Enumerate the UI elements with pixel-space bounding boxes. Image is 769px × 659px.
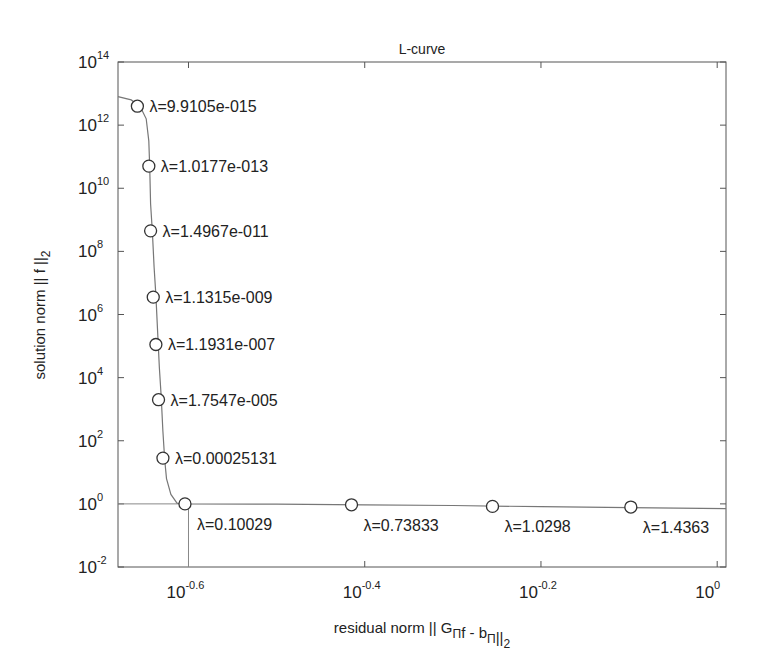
x-axis-title: residual norm || GΠf - bΠ||2 bbox=[334, 619, 511, 651]
lambda-point-label: λ=1.4363 bbox=[643, 519, 709, 536]
l-curve-chart: L-curve 10141012101010810610410210010-2 … bbox=[0, 0, 769, 659]
lambda-point-label: λ=1.7547e-005 bbox=[171, 392, 278, 409]
lambda-point-label: λ=0.00025131 bbox=[175, 450, 277, 467]
lambda-point-label: λ=1.1931e-007 bbox=[168, 336, 275, 353]
lambda-point-marker bbox=[625, 501, 637, 513]
y-tick-label: 106 bbox=[78, 302, 103, 325]
lambda-point-marker bbox=[486, 500, 498, 512]
y-tick-label: 104 bbox=[78, 365, 103, 388]
lambda-point-label: λ=0.10029 bbox=[197, 516, 272, 533]
lambda-point-marker bbox=[143, 160, 155, 172]
y-tick-label: 1012 bbox=[78, 112, 109, 135]
lambda-point-label: λ=1.0177e-013 bbox=[161, 158, 268, 175]
y-tick-label: 100 bbox=[78, 491, 103, 514]
y-tick-label: 1010 bbox=[78, 175, 109, 198]
lambda-point-marker bbox=[147, 291, 159, 303]
lambda-point-label: λ=1.4967e-011 bbox=[163, 223, 269, 240]
lambda-point-marker bbox=[153, 394, 165, 406]
plot-area bbox=[118, 62, 726, 567]
x-tick-label: 10-0.4 bbox=[343, 579, 381, 602]
x-tick-label: 10-0.2 bbox=[519, 579, 557, 602]
y-tick-label: 102 bbox=[78, 428, 103, 451]
lambda-point-label: λ=1.1315e-009 bbox=[165, 289, 272, 306]
x-tick-label: 100 bbox=[695, 579, 720, 602]
lambda-point-label: λ=9.9105e-015 bbox=[149, 98, 256, 115]
lambda-point-marker bbox=[157, 452, 169, 464]
x-tick-label: 10-0.6 bbox=[166, 579, 204, 602]
chart-title: L-curve bbox=[399, 41, 446, 57]
y-axis-title: solution norm || f ||2 bbox=[31, 250, 53, 379]
lambda-point-marker bbox=[150, 338, 162, 350]
lambda-point-marker bbox=[179, 498, 191, 510]
lambda-point-label: λ=1.0298 bbox=[504, 518, 570, 535]
lambda-point-marker bbox=[131, 100, 143, 112]
y-tick-label: 1014 bbox=[78, 49, 109, 72]
lambda-point-label: λ=0.73833 bbox=[364, 517, 439, 534]
lambda-point-marker bbox=[145, 225, 157, 237]
y-tick-label: 10-2 bbox=[78, 554, 107, 577]
lambda-point-marker bbox=[346, 499, 358, 511]
y-tick-label: 108 bbox=[78, 238, 103, 261]
